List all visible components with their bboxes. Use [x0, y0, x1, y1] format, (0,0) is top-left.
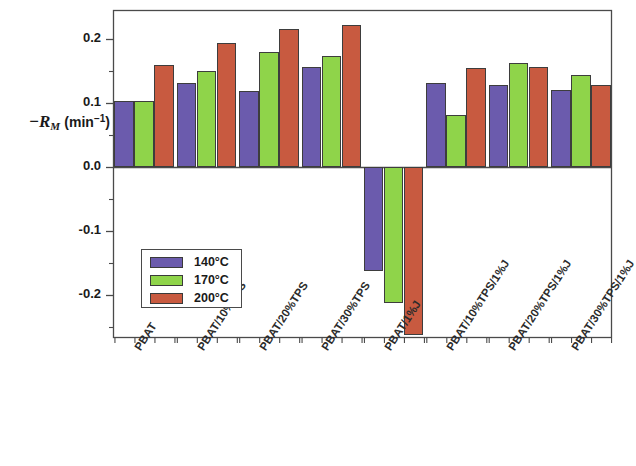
y-tick-label: 0.0 [43, 158, 101, 173]
legend-swatch [150, 293, 183, 304]
legend-label: 170°C [194, 273, 229, 287]
bar [591, 85, 611, 167]
bar [134, 101, 154, 167]
bar [551, 90, 571, 167]
legend-swatch [150, 275, 183, 286]
legend-item: 140°C [150, 253, 241, 271]
bar [364, 167, 384, 271]
legend-swatch [150, 257, 183, 268]
bar [114, 101, 134, 167]
y-tick-label: -0.2 [43, 286, 101, 301]
bar [217, 43, 237, 167]
bar [384, 167, 404, 303]
legend-item: 200°C [150, 289, 241, 307]
bar [259, 52, 279, 167]
y-tick-label: 0.1 [43, 94, 101, 109]
legend-label: 140°C [194, 255, 229, 269]
y-tick-label: -0.1 [43, 222, 101, 237]
bar [239, 91, 259, 167]
bar [177, 83, 197, 167]
legend: 140°C170°C200°C [141, 249, 242, 308]
bar [466, 68, 486, 167]
bar [322, 56, 342, 167]
bar [489, 85, 509, 167]
bar [571, 75, 591, 167]
y-tick-label: 0.2 [43, 30, 101, 45]
bar [342, 25, 362, 167]
bar [426, 83, 446, 167]
legend-item: 170°C [150, 271, 241, 289]
bar [509, 63, 529, 167]
bar [529, 67, 549, 167]
bar [279, 29, 299, 167]
legend-label: 200°C [194, 291, 229, 305]
bar [446, 115, 466, 167]
bar [197, 71, 217, 167]
bar [154, 65, 174, 167]
bar [302, 67, 322, 167]
